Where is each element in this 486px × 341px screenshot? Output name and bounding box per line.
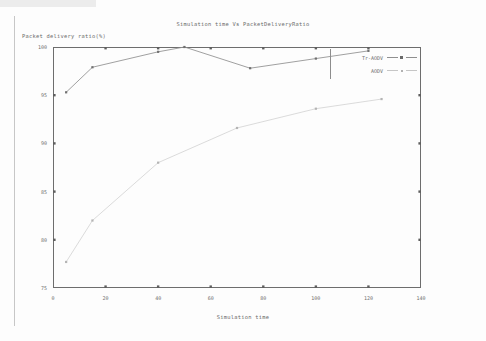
legend-line-sample-series-0 xyxy=(387,54,417,61)
x-axis-tick-label: 100 xyxy=(304,295,328,301)
chart-figure: Simulation time Vs PacketDeliveryRatio P… xyxy=(0,0,486,341)
x-axis-tick-label: 20 xyxy=(94,295,118,301)
y-axis-tick-label: 100 xyxy=(25,44,47,50)
legend-line-sample-series-1 xyxy=(387,67,417,74)
y-axis-tick-label: 90 xyxy=(25,140,47,146)
y-axis-tick-label: 85 xyxy=(25,189,47,195)
x-axis-tick-label: 40 xyxy=(146,295,170,301)
y-axis-tick-label: 95 xyxy=(25,92,47,98)
legend-item: Tr-AODV xyxy=(331,53,417,62)
x-axis-tick-label: 60 xyxy=(199,295,223,301)
x-axis-tick-label: 120 xyxy=(356,295,380,301)
x-axis-tick-label: 80 xyxy=(251,295,275,301)
x-axis-tick-label: 0 xyxy=(41,295,65,301)
legend-item: AODV xyxy=(331,66,417,75)
y-axis-tick-label: 80 xyxy=(25,237,47,243)
x-axis-tick-label: 140 xyxy=(409,295,433,301)
chart-legend: Tr-AODV AODV xyxy=(330,49,419,79)
legend-item-label: Tr-AODV xyxy=(362,55,383,61)
y-axis-tick-label: 75 xyxy=(25,285,47,291)
legend-item-label: AODV xyxy=(371,68,383,74)
